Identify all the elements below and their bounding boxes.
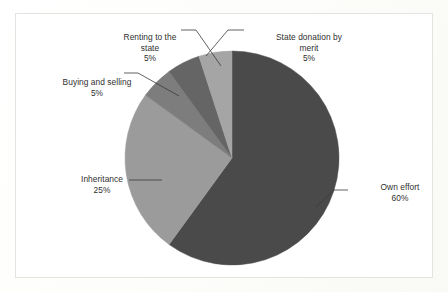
pie-label-buying-and-selling-value: 5% xyxy=(46,88,148,99)
pie-label-own-effort: Own effort 60% xyxy=(360,182,440,203)
chart-frame: Renting to the state 5% State donation b… xyxy=(15,13,433,278)
pie-label-state-donation-by-merit-name-line1: State donation by xyxy=(254,32,364,43)
pie-label-inheritance: Inheritance 25% xyxy=(64,174,140,195)
pie-label-state-donation-by-merit-value: 5% xyxy=(254,53,364,64)
pie-label-renting-to-the-state-value: 5% xyxy=(104,53,196,64)
pie-label-inheritance-name: Inheritance xyxy=(64,174,140,185)
chart-screenshot: Renting to the state 5% State donation b… xyxy=(0,0,448,292)
pie-label-own-effort-name: Own effort xyxy=(360,182,440,193)
pie-label-state-donation-by-merit: State donation by merit 5% xyxy=(254,32,364,64)
pie-label-buying-and-selling-name: Buying and selling xyxy=(46,77,148,88)
pie-label-inheritance-value: 25% xyxy=(64,185,140,196)
plot-area: Renting to the state 5% State donation b… xyxy=(16,14,432,277)
pie-label-state-donation-by-merit-name-line2: merit xyxy=(254,43,364,54)
pie-label-renting-to-the-state: Renting to the state 5% xyxy=(104,32,196,64)
pie-label-own-effort-value: 60% xyxy=(360,193,440,204)
pie-label-renting-to-the-state-name-line1: Renting to the xyxy=(104,32,196,43)
pie-label-buying-and-selling: Buying and selling 5% xyxy=(46,77,148,98)
pie-chart-graphic xyxy=(16,14,432,277)
pie-slice-group xyxy=(125,51,339,265)
pie-label-renting-to-the-state-name-line2: state xyxy=(104,43,196,54)
